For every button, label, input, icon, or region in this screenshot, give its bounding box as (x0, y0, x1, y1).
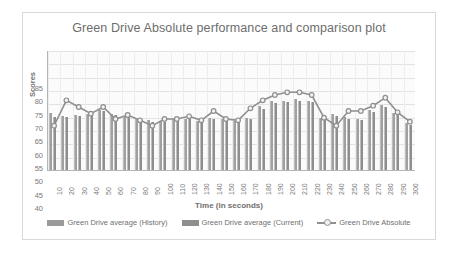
data-point-marker (260, 98, 265, 103)
x-tick-label: 260 (363, 183, 370, 195)
line-series (48, 51, 415, 171)
legend-line-marker-icon (317, 219, 336, 226)
x-tick-label: 20 (68, 187, 75, 195)
x-tick-label: 30 (81, 187, 88, 195)
data-point-marker (395, 110, 400, 115)
x-tick-label: 280 (387, 183, 394, 195)
data-point-marker (175, 117, 180, 122)
data-point-marker (162, 117, 167, 122)
x-tick-label: 170 (252, 183, 259, 195)
x-tick-label: 240 (338, 183, 345, 195)
data-point-marker (89, 111, 94, 116)
data-point-marker (322, 115, 327, 120)
x-tick-label: 100 (167, 183, 174, 195)
x-tick-label: 210 (301, 183, 308, 195)
data-point-marker (211, 109, 216, 114)
data-point-marker (64, 98, 69, 103)
legend-label-absolute: Green Drive Absolute (339, 218, 410, 227)
data-point-marker (408, 119, 413, 124)
x-tick-label: 180 (265, 183, 272, 195)
y-tick-label: 80 (21, 98, 43, 106)
y-tick-label: 55 (21, 165, 43, 173)
x-tick-label: 130 (203, 183, 210, 195)
chart-frame: Green Drive Absolute performance and com… (22, 12, 436, 240)
x-tick-label: 40 (93, 187, 100, 195)
y-tick-label: 70 (21, 125, 43, 133)
x-axis-tick-labels: 1020304050607080901001101201301401501601… (47, 173, 415, 199)
x-tick-label: 220 (314, 183, 321, 195)
legend-item-current[interactable]: Green Drive average (Current) (182, 218, 304, 227)
x-tick-label: 110 (179, 184, 186, 195)
data-point-marker (371, 103, 376, 108)
x-tick-label: 190 (277, 183, 284, 195)
x-tick-label: 290 (400, 183, 407, 195)
y-tick-label: 50 (21, 178, 43, 186)
x-tick-label: 60 (117, 187, 124, 195)
data-point-marker (76, 105, 81, 110)
x-tick-label: 50 (105, 187, 112, 195)
x-tick-label: 10 (56, 187, 63, 195)
plot-area (47, 51, 415, 171)
x-tick-label: 230 (326, 183, 333, 195)
data-point-marker (285, 90, 290, 95)
data-point-marker (199, 118, 204, 123)
y-tick-label: 75 (21, 112, 43, 120)
x-axis-title: Time (in seconds) (23, 201, 435, 210)
data-point-marker (309, 93, 314, 98)
line-path (54, 92, 410, 125)
data-point-marker (236, 118, 241, 123)
data-point-marker (346, 109, 351, 114)
y-tick-label: 85 (21, 85, 43, 93)
chart-legend: Green Drive average (History) Green Driv… (23, 218, 435, 227)
data-point-marker (113, 117, 118, 122)
data-point-marker (273, 93, 278, 98)
y-tick-label: 60 (21, 152, 43, 160)
x-tick-label: 200 (289, 183, 296, 195)
plot-wrapper: Scores 85807570656055504540 (47, 51, 415, 171)
x-tick-label: 160 (240, 183, 247, 195)
x-tick-label: 300 (412, 183, 419, 195)
legend-swatch-current-icon (182, 220, 199, 226)
data-point-marker (334, 123, 339, 128)
x-tick-label: 150 (228, 183, 235, 195)
legend-label-current: Green Drive average (Current) (202, 218, 304, 227)
data-point-marker (150, 123, 155, 128)
chart-title: Green Drive Absolute performance and com… (23, 21, 435, 35)
x-tick-label: 250 (351, 183, 358, 195)
y-tick-label: 45 (21, 192, 43, 200)
data-point-marker (297, 90, 302, 95)
data-point-marker (125, 113, 130, 118)
x-tick-label: 140 (216, 183, 223, 195)
legend-label-history: Green Drive average (History) (67, 218, 167, 227)
data-point-marker (248, 106, 253, 111)
legend-item-absolute[interactable]: Green Drive Absolute (317, 218, 410, 227)
x-tick-label: 70 (130, 187, 137, 195)
data-point-marker (187, 114, 192, 119)
y-tick-label: 65 (21, 138, 43, 146)
data-point-marker (52, 123, 57, 128)
legend-item-history[interactable]: Green Drive average (History) (47, 218, 167, 227)
data-point-marker (138, 118, 143, 123)
data-point-marker (101, 105, 106, 110)
x-tick-label: 80 (142, 187, 149, 195)
x-tick-label: 120 (191, 183, 198, 195)
data-point-marker (224, 117, 229, 122)
data-point-marker (359, 109, 364, 114)
x-tick-label: 270 (375, 183, 382, 195)
x-tick-label: 90 (154, 187, 161, 195)
legend-swatch-history-icon (47, 220, 64, 226)
data-point-marker (383, 95, 388, 100)
